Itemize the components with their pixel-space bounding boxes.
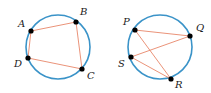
segment-BC bbox=[76, 22, 82, 69]
segment-SQ bbox=[131, 36, 190, 57]
point-B bbox=[73, 19, 78, 24]
point-R bbox=[168, 76, 173, 81]
point-label-D: D bbox=[13, 58, 22, 69]
point-label-S: S bbox=[118, 58, 125, 69]
point-P bbox=[132, 27, 137, 32]
point-label-P: P bbox=[122, 16, 130, 27]
point-label-R: R bbox=[174, 79, 183, 90]
point-S bbox=[128, 54, 133, 59]
point-A bbox=[28, 28, 33, 33]
segment-CD bbox=[28, 58, 82, 69]
segment-SR bbox=[131, 57, 171, 79]
point-Q bbox=[187, 33, 192, 38]
point-label-B: B bbox=[79, 6, 87, 17]
point-D bbox=[25, 55, 30, 60]
point-label-Q: Q bbox=[196, 22, 204, 33]
quadrilateral-ABCD: ABCD bbox=[13, 6, 95, 81]
segment-PQ bbox=[135, 30, 190, 36]
cyclic-figures-diagram: ABCDPQRS bbox=[0, 0, 211, 93]
point-C bbox=[79, 66, 84, 71]
chords-PQRS: PQRS bbox=[118, 15, 204, 90]
point-label-A: A bbox=[17, 18, 25, 29]
segment-AB bbox=[31, 22, 76, 31]
point-label-C: C bbox=[87, 70, 95, 81]
